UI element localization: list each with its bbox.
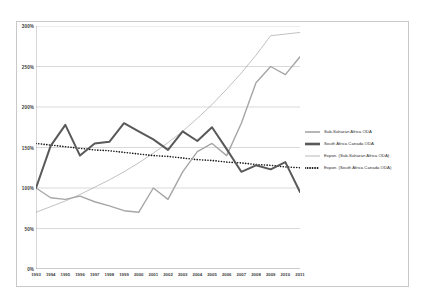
y-axis-tick-label: 250% [22, 64, 34, 69]
x-axis-tick-label: 2002 [163, 272, 173, 277]
y-axis-tick-label: 300% [22, 24, 34, 29]
y-axis-tick-label: 100% [22, 186, 34, 191]
x-axis-tick-label: 1996 [75, 272, 85, 277]
x-axis-tick-label: 2005 [207, 272, 217, 277]
x-axis-tick-label: 2006 [222, 272, 232, 277]
legend-swatch-icon [305, 164, 320, 172]
y-axis-labels: 0%50%100%150%200%250%300% [14, 26, 34, 269]
y-axis-tick-label: 150% [22, 145, 34, 150]
x-axis-tick-label: 2007 [237, 272, 247, 277]
series-line [36, 57, 300, 213]
x-axis-labels: 1993199419951996199719981999200020012002… [36, 272, 300, 284]
x-axis-tick-label: 2000 [134, 272, 144, 277]
x-axis-tick-label: 1993 [31, 272, 41, 277]
y-axis-tick-label: 50% [25, 226, 35, 231]
chart-legend: Sub-Saharan Africa ODASouth Africa Canad… [305, 126, 409, 174]
series-line [36, 32, 300, 212]
series-line [36, 123, 300, 192]
x-axis-tick-label: 1999 [119, 272, 129, 277]
y-axis-tick-label: 0% [27, 267, 34, 272]
x-axis-tick-label: 1998 [105, 272, 115, 277]
legend-label: Sub-Saharan Africa ODA [324, 130, 372, 134]
x-axis-tick-label: 1997 [90, 272, 100, 277]
legend-item[interactable]: Expon. (Sub-Saharan Africa ODA) [305, 150, 409, 162]
x-axis-tick-label: 2011 [295, 272, 304, 277]
x-axis-tick-label: 2001 [149, 272, 159, 277]
x-axis-tick-label: 2010 [281, 272, 291, 277]
x-axis-tick-label: 2009 [266, 272, 276, 277]
legend-item[interactable]: South Africa Canada ODA [305, 138, 409, 150]
x-axis-tick-label: 2008 [251, 272, 261, 277]
legend-label: Expon. (South Africa Canada ODA) [324, 166, 391, 170]
legend-item[interactable]: Expon. (South Africa Canada ODA) [305, 162, 409, 174]
legend-swatch-icon [305, 152, 320, 160]
legend-label: Expon. (Sub-Saharan Africa ODA) [324, 154, 389, 158]
chart-svg [36, 26, 300, 269]
plot-area [36, 26, 300, 269]
chart-page: 0%50%100%150%200%250%300% 19931994199519… [0, 0, 425, 306]
legend-swatch-icon [305, 128, 320, 136]
legend-swatch-icon [305, 140, 320, 148]
x-axis-tick-label: 2003 [178, 272, 188, 277]
x-axis-tick-label: 2004 [193, 272, 203, 277]
legend-item[interactable]: Sub-Saharan Africa ODA [305, 126, 409, 138]
y-axis-tick-label: 200% [22, 105, 34, 110]
x-axis-tick-label: 1995 [61, 272, 71, 277]
x-axis-tick-label: 1994 [46, 272, 56, 277]
legend-label: South Africa Canada ODA [324, 142, 374, 146]
